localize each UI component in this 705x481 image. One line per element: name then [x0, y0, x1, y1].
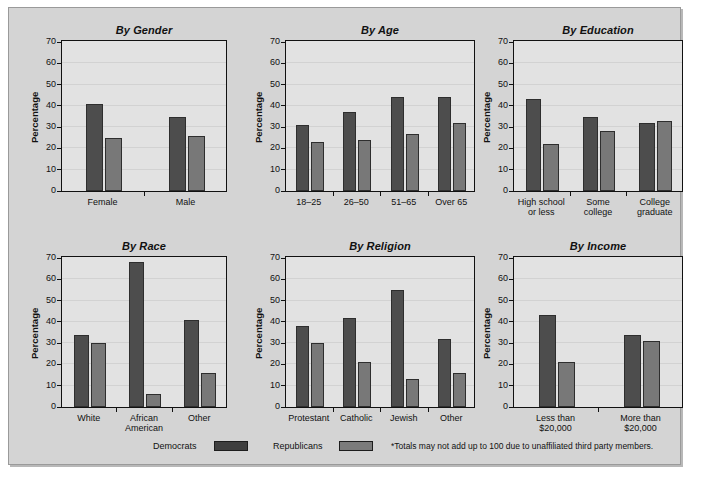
y-tick-label: 20 — [486, 359, 508, 368]
grid-line — [62, 278, 226, 279]
y-tick-mark — [57, 364, 61, 365]
bar-democrats — [391, 97, 404, 191]
y-tick-mark — [57, 191, 61, 192]
y-tick-mark — [281, 127, 285, 128]
y-tick-label: 10 — [258, 381, 280, 390]
bar-democrats — [74, 335, 89, 407]
y-axis-label: Percentage — [29, 92, 40, 143]
y-tick-label: 30 — [258, 122, 280, 131]
y-tick-mark — [509, 385, 513, 386]
grid-line — [514, 62, 682, 63]
y-axis-label: Percentage — [253, 308, 264, 359]
bar-democrats — [184, 320, 199, 407]
x-tick-mark — [333, 408, 334, 412]
chart-legend: Democrats Republicans *Totals may not ad… — [9, 440, 680, 454]
x-tick-label-line: Female — [55, 197, 150, 207]
y-tick-mark — [281, 42, 285, 43]
bar-republicans — [543, 144, 558, 191]
bar-republicans — [406, 379, 419, 407]
bar-democrats — [296, 326, 309, 407]
bar-republicans — [146, 394, 161, 407]
y-tick-label: 70 — [34, 37, 56, 46]
y-tick-label: 10 — [258, 165, 280, 174]
plot-area — [285, 40, 475, 192]
grid-line — [286, 62, 474, 63]
bar-democrats — [583, 117, 598, 192]
y-tick-label: 0 — [258, 186, 280, 195]
y-tick-mark — [57, 169, 61, 170]
y-tick-mark — [57, 321, 61, 322]
y-tick-mark — [509, 321, 513, 322]
panel-title: By Education — [513, 24, 683, 36]
x-tick-label-line: $20,000 — [507, 423, 604, 433]
x-tick-label-line: $20,000 — [592, 423, 689, 433]
x-tick-label: Other — [422, 413, 482, 423]
grid-line — [62, 300, 226, 301]
y-tick-mark — [57, 279, 61, 280]
plot-area — [513, 256, 683, 408]
y-tick-mark — [281, 385, 285, 386]
y-tick-label: 0 — [486, 402, 508, 411]
y-tick-label: 20 — [258, 359, 280, 368]
grid-line — [286, 84, 474, 85]
y-tick-mark — [509, 169, 513, 170]
legend-item-democrats: Democrats — [153, 440, 197, 452]
y-tick-mark — [281, 321, 285, 322]
y-tick-mark — [281, 407, 285, 408]
y-tick-label: 50 — [34, 80, 56, 89]
y-tick-label: 0 — [258, 402, 280, 411]
y-tick-label: 70 — [486, 37, 508, 46]
x-tick-label: Female — [55, 197, 150, 207]
grid-line — [62, 321, 226, 322]
grid-line — [286, 278, 474, 279]
bar-democrats — [438, 339, 451, 407]
y-tick-label: 20 — [486, 143, 508, 152]
y-tick-label: 70 — [258, 37, 280, 46]
y-tick-mark — [57, 148, 61, 149]
bar-democrats — [129, 262, 144, 407]
y-tick-label: 10 — [486, 165, 508, 174]
bar-democrats — [343, 318, 356, 407]
x-tick-mark — [172, 408, 173, 412]
x-tick-mark — [598, 408, 599, 412]
y-tick-label: 40 — [258, 317, 280, 326]
plot-area — [61, 256, 227, 408]
legend-swatch-republicans — [339, 441, 373, 451]
x-tick-mark — [428, 408, 429, 412]
y-tick-label: 50 — [258, 80, 280, 89]
bar-republicans — [558, 362, 575, 407]
x-tick-label-line: Other — [166, 413, 233, 423]
y-tick-mark — [281, 300, 285, 301]
bar-republicans — [311, 343, 324, 407]
bar-republicans — [600, 131, 615, 191]
chart-panel: By ReligionPercentage010203040506070Prot… — [251, 240, 475, 426]
x-tick-label-line: Other — [422, 413, 482, 423]
y-tick-mark — [281, 279, 285, 280]
legend-item-republicans: Republicans — [273, 440, 323, 452]
y-tick-label: 0 — [486, 186, 508, 195]
plot-area — [285, 256, 475, 408]
y-tick-label: 50 — [258, 296, 280, 305]
y-axis-label: Percentage — [253, 92, 264, 143]
y-tick-mark — [509, 42, 513, 43]
x-tick-label: Collegegraduate — [620, 197, 689, 217]
legend-label-democrats: Democrats — [153, 441, 197, 451]
x-tick-label-line: Less than — [507, 413, 604, 423]
grid-line — [514, 300, 682, 301]
y-tick-label: 20 — [34, 143, 56, 152]
y-tick-label: 60 — [258, 58, 280, 67]
legend-label-republicans: Republicans — [273, 441, 323, 451]
y-tick-label: 30 — [486, 338, 508, 347]
x-tick-label-line: More than — [592, 413, 689, 423]
x-tick-label-line: American — [110, 423, 177, 433]
y-tick-mark — [509, 279, 513, 280]
x-tick-label-line: graduate — [620, 207, 689, 217]
y-tick-mark — [57, 407, 61, 408]
y-tick-mark — [509, 407, 513, 408]
x-tick-mark — [380, 408, 381, 412]
y-tick-label: 40 — [34, 317, 56, 326]
y-tick-mark — [281, 105, 285, 106]
y-tick-label: 0 — [34, 186, 56, 195]
chart-panel: By IncomePercentage010203040506070Less t… — [479, 240, 683, 426]
y-tick-label: 40 — [486, 101, 508, 110]
